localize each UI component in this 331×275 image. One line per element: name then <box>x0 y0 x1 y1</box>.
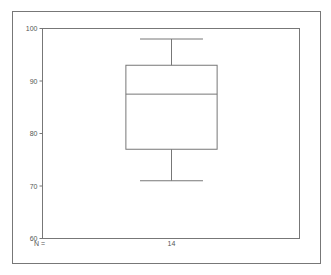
box-plot-chart: 60708090100 14 N = <box>0 0 331 275</box>
n-label: N = <box>34 240 45 247</box>
iqr-box <box>126 65 217 149</box>
y-tick-label: 70 <box>30 183 38 190</box>
box-group: 14 <box>126 39 217 247</box>
y-tick-label: 80 <box>30 130 38 137</box>
y-tick-label: 90 <box>30 78 38 85</box>
boxes-layer: 14 <box>126 39 217 247</box>
y-tick-label: 100 <box>26 25 38 32</box>
y-axis: 60708090100 <box>26 25 43 242</box>
outer-frame <box>13 12 321 264</box>
n-count-label: 14 <box>168 240 176 247</box>
